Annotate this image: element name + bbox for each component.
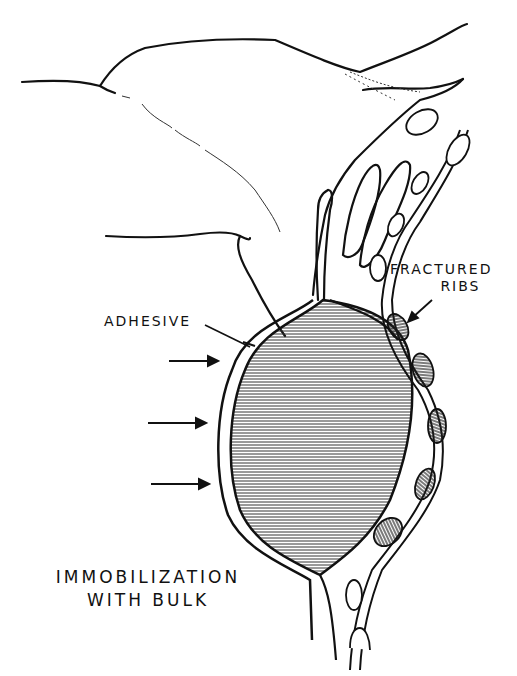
caption-line1: IMMOBILIZATION <box>38 566 258 589</box>
arrow-right-icon <box>148 418 206 428</box>
pressure-arrows <box>148 356 218 489</box>
arrow-right-icon <box>169 356 218 366</box>
fractured-ribs-label: FRACTURED RIBS <box>390 261 492 295</box>
figure-caption: IMMOBILIZATION WITH BULK <box>38 566 258 612</box>
fractured-ribs-label-line1: FRACTURED <box>390 261 492 278</box>
arrow-right-icon <box>151 479 209 489</box>
adhesive-leader-line <box>205 325 250 347</box>
fractured-ribs-arrow <box>408 300 432 322</box>
adhesive-label: ADHESIVE <box>104 313 191 330</box>
caption-line2: WITH BULK <box>38 589 258 612</box>
fractured-ribs-label-line2: RIBS <box>390 278 492 295</box>
